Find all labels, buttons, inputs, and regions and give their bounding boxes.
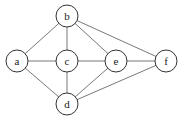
node-label: d <box>64 98 70 110</box>
node-f: f <box>155 50 177 72</box>
node-c: c <box>56 50 78 72</box>
nodes: abcdef <box>6 5 177 115</box>
node-d: d <box>56 93 78 115</box>
graph-diagram: abcdef <box>0 0 180 125</box>
node-label: e <box>114 55 119 67</box>
node-b: b <box>56 5 78 27</box>
node-e: e <box>105 50 127 72</box>
node-a: a <box>6 50 28 72</box>
node-label: b <box>64 10 70 22</box>
node-label: a <box>15 55 20 67</box>
node-label: c <box>65 55 70 67</box>
node-label: f <box>164 55 168 67</box>
edges <box>17 16 166 104</box>
